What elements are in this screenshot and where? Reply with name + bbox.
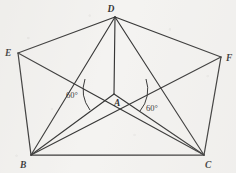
interior-segments	[18, 17, 221, 155]
vertex-label-D: D	[107, 4, 115, 14]
angle-left-60-label: 60°	[66, 90, 78, 100]
segment-D-A	[114, 17, 115, 94]
vertex-label-A: A	[113, 98, 120, 108]
segment-D-B	[31, 17, 115, 155]
segment-A-B	[31, 94, 114, 155]
segment-E-C	[18, 53, 204, 155]
vertex-label-B: B	[19, 160, 26, 170]
angle-labels: 60° 60°	[66, 90, 158, 113]
edge-F-C	[204, 57, 221, 155]
vertex-label-F: F	[225, 53, 233, 63]
figure-container: 60° 60° D E F A B C	[0, 0, 236, 173]
segment-D-C	[115, 17, 204, 155]
angle-right-60-label: 60°	[146, 103, 158, 113]
geometry-diagram: 60° 60° D E F A B C	[0, 0, 236, 173]
vertex-label-C: C	[205, 160, 212, 170]
segment-A-C	[114, 94, 204, 155]
angle-left-60-arc	[83, 79, 90, 110]
edge-E-D	[18, 17, 115, 53]
edge-D-F	[115, 17, 221, 57]
vertex-label-E: E	[4, 48, 11, 58]
edge-B-E	[18, 53, 31, 155]
vertex-labels: D E F A B C	[4, 4, 233, 170]
segment-F-B	[31, 57, 221, 155]
